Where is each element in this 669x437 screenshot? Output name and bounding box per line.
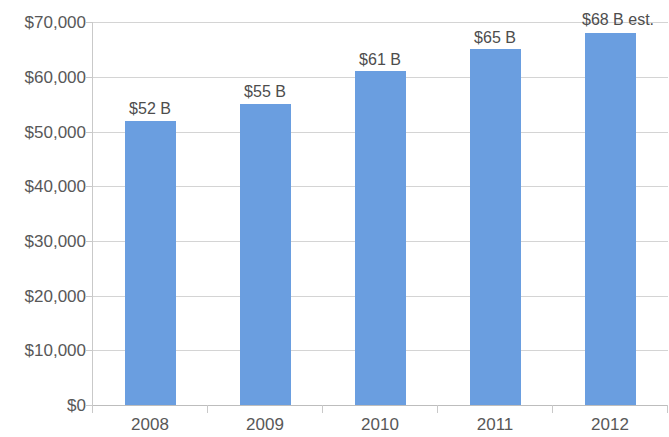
- bar-chart: $70,000 $60,000 $50,000 $40,000 $30,000 …: [0, 0, 669, 437]
- x-axis-label-2011: 2011: [477, 416, 514, 434]
- plot-area: [92, 22, 668, 405]
- y-axis-label-50000: $50,000: [0, 124, 86, 141]
- bar-2011[interactable]: [470, 49, 521, 405]
- y-axis-label-0: $0: [0, 397, 86, 414]
- bar-value-label-2011: $65 B: [474, 30, 516, 46]
- x-axis-label-2009: 2009: [246, 416, 284, 434]
- bar-value-label-2008: $52 B: [129, 101, 171, 117]
- bar-2009[interactable]: [240, 104, 291, 405]
- bar-2012[interactable]: [585, 33, 636, 405]
- x-tick-2: [322, 405, 323, 413]
- y-axis-label-60000: $60,000: [0, 69, 86, 86]
- bar-2010[interactable]: [355, 71, 406, 405]
- x-tick-5: [667, 405, 668, 413]
- y-axis-label-20000: $20,000: [0, 288, 86, 305]
- x-axis-label-2012: 2012: [591, 416, 629, 434]
- y-axis-label-10000: $10,000: [0, 342, 86, 359]
- gridline-0: [92, 405, 668, 406]
- bar-value-label-2009: $55 B: [244, 84, 286, 100]
- x-axis-label-2010: 2010: [361, 416, 399, 434]
- y-axis-label-40000: $40,000: [0, 178, 86, 195]
- y-axis-label-70000: $70,000: [0, 14, 86, 31]
- x-tick-4: [552, 405, 553, 413]
- x-tick-1: [207, 405, 208, 413]
- x-tick-3: [437, 405, 438, 413]
- y-axis-label-30000: $30,000: [0, 233, 86, 250]
- x-tick-0: [92, 405, 93, 413]
- x-axis-label-2008: 2008: [131, 416, 169, 434]
- bar-value-label-2012: $68 B est.: [582, 12, 654, 28]
- bar-value-label-2010: $61 B: [359, 52, 401, 68]
- bar-2008[interactable]: [125, 121, 176, 406]
